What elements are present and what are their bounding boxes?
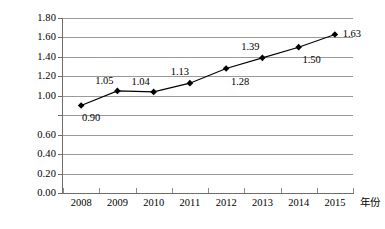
data-point-marker [259,55,266,62]
data-point-label: 1.50 [302,54,320,65]
data-point-marker [187,80,194,87]
series-line-layer [0,0,385,229]
data-point-marker [332,31,339,38]
series-markers [78,31,338,109]
series-line [81,35,335,106]
data-point-label: 1.63 [343,27,361,38]
data-point-marker [150,89,157,96]
line-chart: 1.801.601.401.201.000.600.400.200.00 200… [0,0,385,229]
data-point-label: 1.39 [241,40,259,51]
data-point-marker [295,44,302,51]
data-point-label: 1.05 [95,74,113,85]
data-point-marker [78,102,85,109]
data-point-marker [114,88,121,95]
data-point-marker [223,65,230,72]
data-point-label: 1.13 [171,66,189,77]
data-point-label: 1.04 [131,75,149,86]
data-point-label: 0.90 [82,111,100,122]
data-point-label: 1.28 [231,75,249,86]
